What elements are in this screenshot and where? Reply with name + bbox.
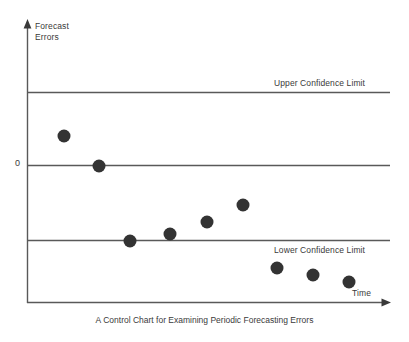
y-axis [24, 19, 32, 303]
data-point [93, 160, 106, 173]
data-point [237, 199, 250, 212]
y-axis-label-line2: Errors [35, 32, 59, 42]
x-axis [27, 299, 391, 307]
data-point [271, 262, 284, 275]
data-point-series [58, 130, 356, 289]
zero-tick-label: 0 [15, 158, 20, 169]
control-chart-figure: ForecastErrors Time 0 Upper Confidence L… [0, 0, 409, 342]
data-point [201, 216, 214, 229]
y-axis-label: ForecastErrors [35, 21, 69, 42]
y-axis-arrow-icon [24, 19, 32, 29]
lower-confidence-limit-label: Lower Confidence Limit [274, 245, 365, 256]
x-axis-label: Time [352, 288, 371, 299]
data-point [58, 130, 71, 143]
data-point [164, 228, 177, 241]
figure-caption: A Control Chart for Examining Periodic F… [0, 315, 409, 325]
chart-plot-area: ForecastErrors Time 0 Upper Confidence L… [0, 0, 409, 342]
chart-canvas [0, 0, 409, 342]
y-axis-label-line1: Forecast [35, 21, 69, 31]
data-point [307, 269, 320, 282]
x-axis-arrow-icon [382, 299, 392, 307]
upper-confidence-limit-label: Upper Confidence Limit [274, 78, 365, 89]
data-point [343, 276, 356, 289]
data-point [124, 235, 137, 248]
